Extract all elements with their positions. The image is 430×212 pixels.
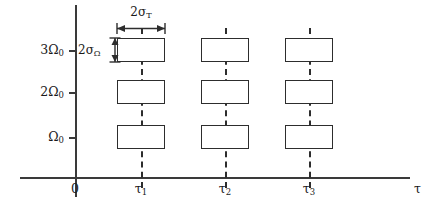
height-annotation-label: 2σΩ (78, 44, 101, 56)
y-tick-2omega0 (69, 92, 76, 94)
x-label-origin: 0 (71, 183, 79, 196)
x-label-tau1: τ1 (135, 183, 147, 196)
tile-box (117, 80, 165, 104)
width-annotation-label: 2σT (130, 6, 151, 18)
y-tick-omega0 (69, 137, 76, 139)
x-label-tau2: τ2 (219, 183, 231, 196)
y-label-3omega0: 3Ω0 (40, 44, 64, 57)
x-axis-line (20, 177, 410, 179)
tile-box (201, 38, 249, 62)
tile-box (201, 125, 249, 149)
y-label-omega0: Ω0 (48, 131, 64, 144)
x-axis-name: τ (414, 183, 421, 196)
y-tick-3omega0 (69, 50, 76, 52)
tile-box (201, 80, 249, 104)
width-annotation-arrow (110, 22, 172, 36)
tile-box (285, 80, 333, 104)
height-annotation-arrow (108, 36, 122, 64)
y-axis-line (75, 5, 77, 197)
tile-box (117, 125, 165, 149)
tile-box (285, 125, 333, 149)
x-label-tau3: τ3 (303, 183, 315, 196)
tile-box (285, 38, 333, 62)
tile-box (117, 38, 165, 62)
y-label-2omega0: 2Ω0 (40, 86, 64, 99)
figure-canvas: 3Ω0 2Ω0 Ω0 2σT 2σΩ 0 τ1 τ2 τ3 (0, 0, 430, 212)
